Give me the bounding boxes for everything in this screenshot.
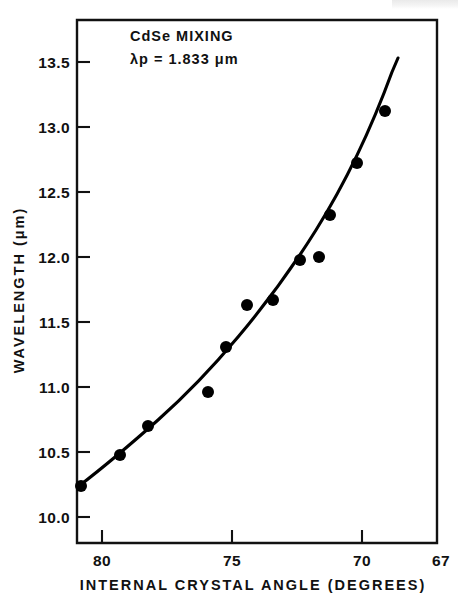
x-tick-label: 67 — [432, 552, 450, 569]
x-tick-label: 70 — [353, 552, 371, 569]
y-tick-labels: 13.5 13.0 12.5 12.0 11.5 11.0 10.5 10.0 — [38, 54, 70, 526]
annotation-material: CdSe MIXING — [130, 28, 234, 44]
data-point — [313, 251, 325, 263]
y-tick-label: 10.5 — [38, 444, 70, 461]
data-point — [267, 294, 279, 306]
annotation-pump-wavelength: λp = 1.833 μm — [130, 51, 239, 67]
fit-curve — [79, 58, 398, 486]
y-axis-title: WAVELENGTH (μm) — [11, 207, 27, 374]
data-point — [351, 157, 363, 169]
data-point — [220, 341, 232, 353]
y-tick-label: 11.0 — [39, 379, 70, 396]
data-point — [324, 209, 336, 221]
y-tick-label: 12.0 — [38, 249, 70, 266]
figure-container: 13.5 13.0 12.5 12.0 11.5 11.0 10.5 10.0 … — [0, 0, 458, 608]
x-tick-labels: 80 75 70 67 — [93, 552, 450, 569]
y-tick-label: 13.5 — [38, 54, 70, 71]
chart-canvas: 13.5 13.0 12.5 12.0 11.5 11.0 10.5 10.0 … — [0, 0, 458, 608]
y-tick-label: 13.0 — [38, 119, 70, 136]
x-tick-label: 80 — [93, 552, 111, 569]
y-tick-label: 12.5 — [38, 184, 70, 201]
data-point — [114, 449, 126, 461]
x-axis-title: INTERNAL CRYSTAL ANGLE (DEGREES) — [80, 577, 427, 593]
data-point — [379, 105, 391, 117]
y-tick-label: 10.0 — [38, 509, 70, 526]
data-point — [142, 420, 154, 432]
data-point — [294, 254, 306, 266]
data-point — [202, 386, 214, 398]
y-axis-ticks — [77, 62, 90, 517]
x-axis-ticks — [102, 530, 362, 543]
plot-annotations: CdSe MIXING λp = 1.833 μm — [130, 28, 239, 67]
y-tick-label: 11.5 — [39, 314, 70, 331]
data-point — [75, 480, 87, 492]
data-points — [75, 105, 391, 492]
x-tick-label: 75 — [223, 552, 241, 569]
data-point — [241, 299, 253, 311]
